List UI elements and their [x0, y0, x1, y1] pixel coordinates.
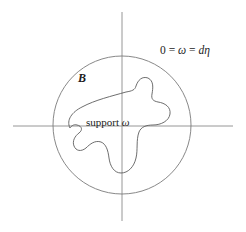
equation-zero: 0	[160, 44, 166, 56]
equation-equals-first: =	[169, 44, 176, 56]
support-omega-symbol: ω	[122, 116, 130, 128]
support-omega-label: support ω	[86, 117, 130, 128]
figure-canvas: 0 = ω = dη B support ω	[0, 0, 246, 232]
equation-equals-second: =	[189, 44, 196, 56]
support-word: support	[86, 116, 119, 128]
ball-label-b: B	[78, 72, 86, 84]
equation-label: 0 = ω = dη	[160, 45, 210, 57]
equation-omega-symbol: ω	[178, 44, 186, 56]
equation-d-eta-symbol: dη	[198, 44, 209, 56]
